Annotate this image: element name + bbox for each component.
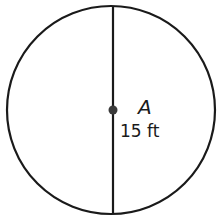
center-label: A bbox=[138, 97, 152, 117]
measurement-label: 15 ft bbox=[120, 123, 159, 140]
center-point bbox=[109, 106, 118, 115]
circle-diagram bbox=[0, 0, 220, 221]
